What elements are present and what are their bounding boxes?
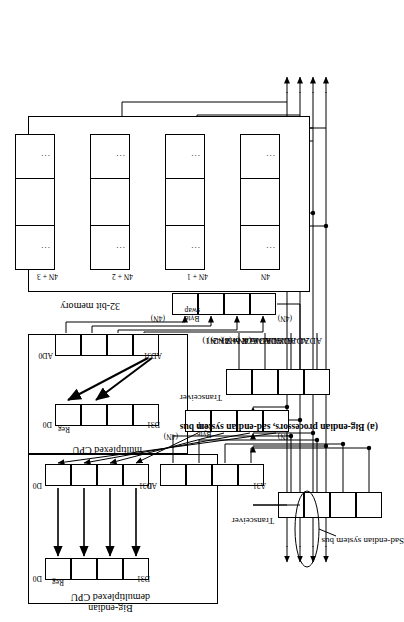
sad-endian-bus-annotation: Sad-endian system bus [322,536,404,546]
figure-caption: (a) Big-endian processors, sad-endian sy… [180,422,378,432]
bus-highlight-ellipse [295,491,319,567]
